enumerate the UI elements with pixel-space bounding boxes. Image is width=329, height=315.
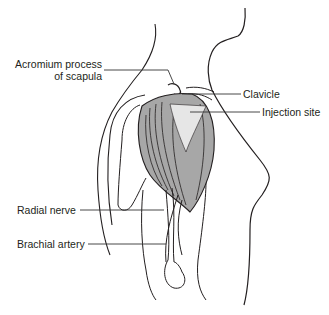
arm-inner-outline bbox=[142, 190, 156, 300]
label-clavicle: Clavicle bbox=[243, 88, 280, 100]
label-acromium-process: Acromium process of scapula bbox=[12, 58, 102, 82]
label-brachial-artery: Brachial artery bbox=[17, 238, 85, 250]
label-acromium-line2: of scapula bbox=[12, 70, 102, 82]
label-acromium-line1: Acromium process bbox=[12, 58, 102, 70]
neck-chest-outline bbox=[208, 8, 269, 305]
label-radial-nerve: Radial nerve bbox=[17, 204, 76, 216]
shoulder-anatomy-illustration bbox=[0, 0, 329, 315]
label-injection-site: Injection site bbox=[262, 106, 320, 118]
